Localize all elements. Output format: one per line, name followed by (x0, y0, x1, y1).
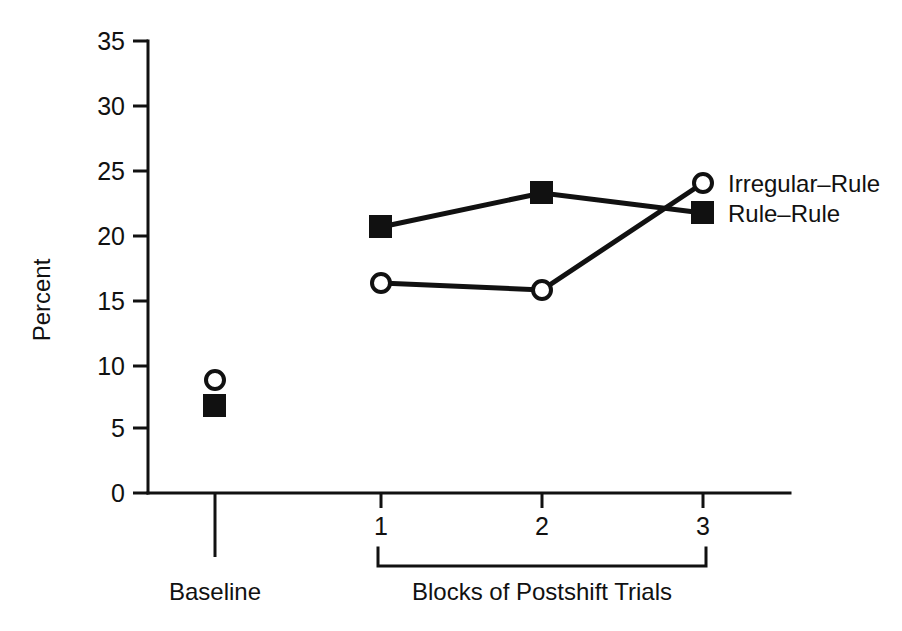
postshift-group-label: Blocks of Postshift Trials (412, 578, 672, 605)
data-point-irregular-rule-block-2 (533, 281, 551, 299)
postshift-bracket (378, 548, 706, 566)
y-tick-label-30: 30 (97, 92, 125, 120)
y-tick-label-15: 15 (97, 287, 125, 315)
y-axis: 35 30 25 20 15 10 5 0 Percent (28, 27, 148, 507)
y-tick-label-20: 20 (97, 222, 125, 250)
data-point-irregular-rule-block-1 (372, 274, 390, 292)
line-chart-canvas: 35 30 25 20 15 10 5 0 Percent 1 2 3 (0, 0, 902, 631)
data-point-irregular-rule-baseline (206, 371, 224, 389)
y-tick-label-10: 10 (97, 352, 125, 380)
y-tick-label-0: 0 (111, 479, 125, 507)
x-tick-label-2: 2 (535, 512, 549, 540)
x-tick-label-3: 3 (696, 512, 710, 540)
baseline-group-label: Baseline (169, 578, 261, 605)
legend-label-irregular-rule: Irregular–Rule (728, 170, 880, 197)
data-point-rule-rule-block-3 (692, 202, 713, 223)
y-tick-label-5: 5 (111, 414, 125, 442)
x-tick-label-1: 1 (374, 512, 388, 540)
data-point-rule-rule-block-2 (531, 182, 552, 203)
data-point-rule-rule-baseline (204, 395, 225, 416)
chart-figure: 35 30 25 20 15 10 5 0 Percent 1 2 3 (0, 0, 902, 631)
legend-label-rule-rule: Rule–Rule (728, 200, 840, 227)
chart-legend: Irregular–Rule Rule–Rule (728, 170, 880, 227)
x-axis: 1 2 3 Baseline Blocks of Postshift Trial… (148, 493, 790, 605)
series-rule-rule (204, 182, 713, 416)
y-tick-label-35: 35 (97, 27, 125, 55)
y-tick-label-25: 25 (97, 157, 125, 185)
data-point-rule-rule-block-1 (370, 216, 391, 237)
data-point-irregular-rule-block-3 (694, 174, 712, 192)
y-axis-title: Percent (28, 258, 55, 341)
